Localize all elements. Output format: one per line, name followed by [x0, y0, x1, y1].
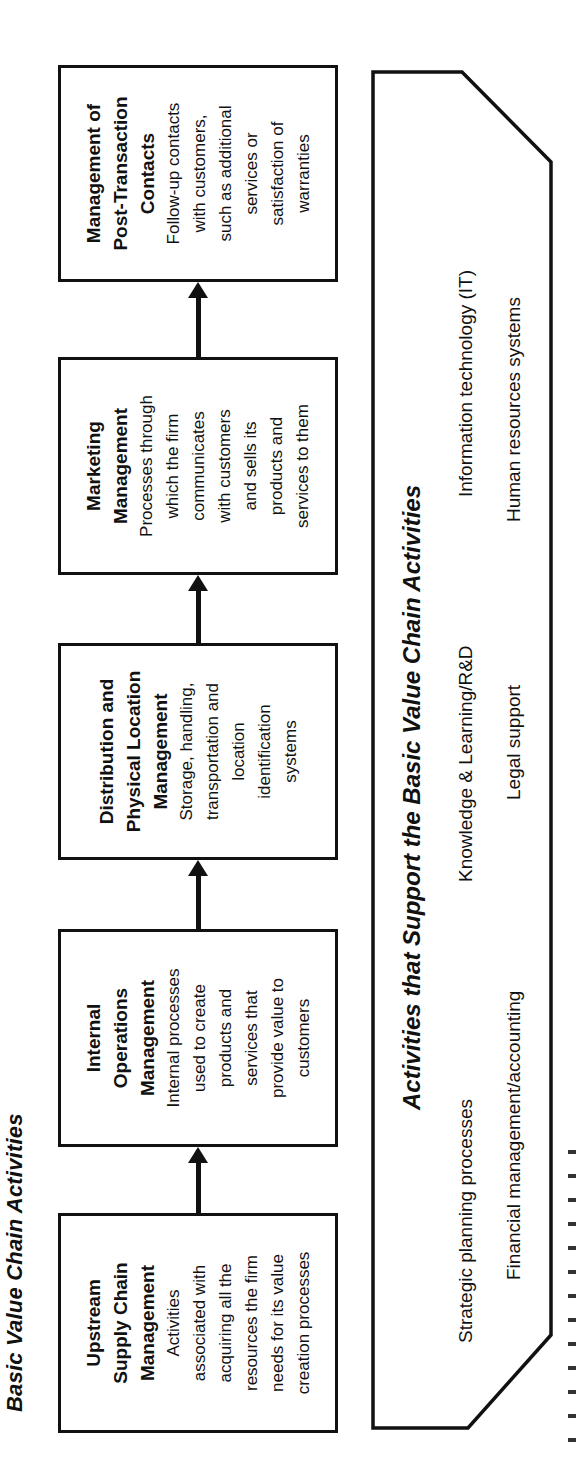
cropped-caption-fragment — [568, 1082, 577, 1442]
support-item-information-technology: Information technology (IT) — [455, 270, 477, 497]
support-item-knowledge-learning: Knowledge & Learning/R&D — [455, 645, 477, 882]
support-item-financial-management: Financial management/accounting — [503, 991, 525, 1280]
support-activities-frame — [0, 0, 577, 1482]
support-activities-header: Activities that Support the Basic Value … — [398, 485, 426, 1110]
value-chain-diagram: Basic Value Chain Activities Upstream Su… — [0, 0, 577, 1482]
support-item-strategic-planning: Strategic planning processes — [455, 1099, 477, 1343]
support-item-human-resources: Human resources systems — [503, 297, 525, 522]
support-item-legal-support: Legal support — [503, 685, 525, 800]
